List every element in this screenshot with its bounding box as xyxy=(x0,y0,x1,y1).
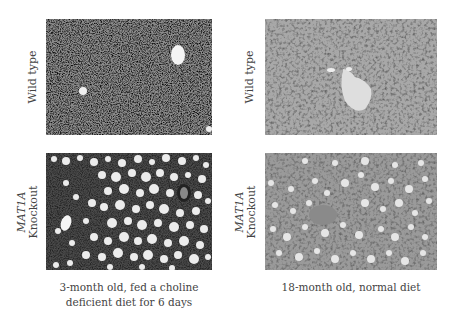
row-label-knockout-right: MAT1A Knockout xyxy=(234,177,260,247)
histology-image xyxy=(46,19,212,135)
column-caption-3-month: 3-month old, fed a choline deficient die… xyxy=(46,280,212,310)
histology-image xyxy=(265,19,437,135)
histology-panel-wild-type-3-month xyxy=(46,19,212,135)
caption-line-2: deficient diet for 6 days xyxy=(66,296,192,308)
histology-panel-knockout-3-month xyxy=(46,153,212,270)
histology-panel-wild-type-18-month xyxy=(265,19,437,135)
knockout-text: Knockout xyxy=(27,186,40,239)
row-label-wild-type-right: Wild type xyxy=(244,42,256,112)
histology-panel-knockout-18-month xyxy=(265,153,437,270)
row-label-wild-type-left: Wild type xyxy=(27,42,39,112)
row-label-knockout-left: MAT1A Knockout xyxy=(16,177,42,247)
column-caption-18-month: 18-month old, normal diet xyxy=(265,280,437,295)
caption-line-1: 3-month old, fed a choline xyxy=(59,281,198,293)
histology-image xyxy=(46,153,212,270)
knockout-text: Knockout xyxy=(245,186,258,239)
caption-line-1: 18-month old, normal diet xyxy=(282,281,421,293)
histology-image xyxy=(265,153,437,270)
